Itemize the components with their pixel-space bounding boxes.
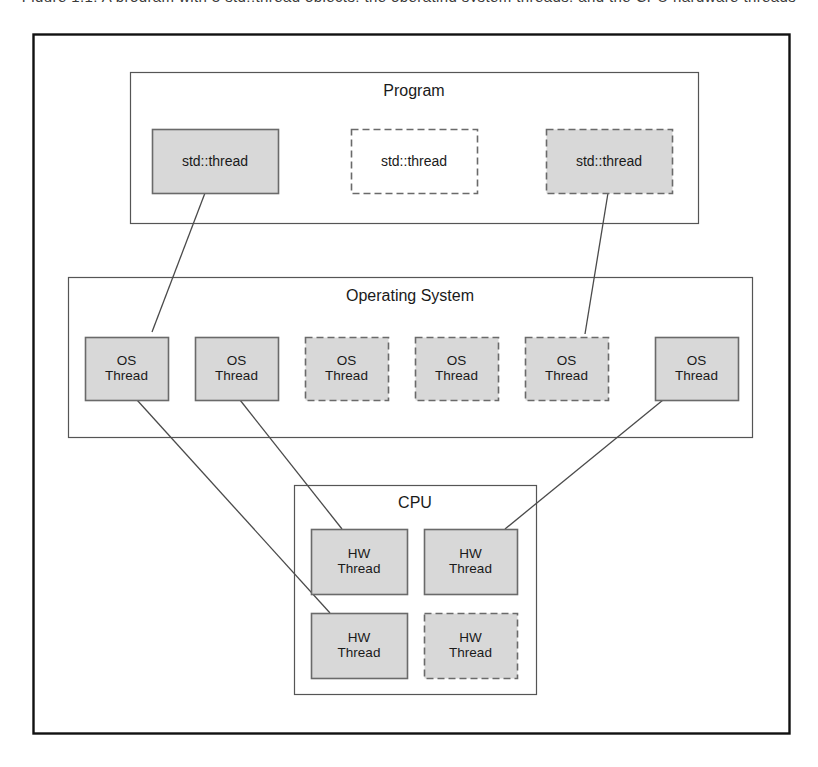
figure-canvas: Figure 1.1: A program with 3 std::thread… [0,0,818,767]
operating-system-node-6[interactable] [656,338,739,401]
cpu-node-1[interactable] [312,530,408,595]
operating-system-node-2[interactable] [196,338,279,401]
program-node-2[interactable] [352,130,478,194]
thread-model-diagram [0,0,818,767]
program-node-3[interactable] [547,130,673,194]
cpu-node-4[interactable] [425,614,518,679]
cpu-node-3[interactable] [312,614,408,679]
operating-system-container [69,278,753,438]
operating-system-node-3[interactable] [306,338,389,401]
operating-system-node-4[interactable] [416,338,499,401]
operating-system-node-5[interactable] [526,338,609,401]
operating-system-node-1[interactable] [86,338,169,401]
program-node-1[interactable] [153,130,279,194]
cpu-node-2[interactable] [425,530,518,595]
